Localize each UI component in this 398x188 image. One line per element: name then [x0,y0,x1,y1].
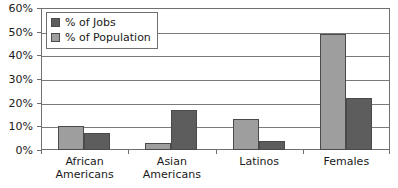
legend-swatch-icon [51,18,60,27]
bar-group-females [303,8,390,150]
x-label-line: Americans [128,168,215,181]
bar-jobs [346,98,372,150]
x-label-line: Females [303,155,390,168]
x-tick-mark [216,150,217,154]
x-tick-mark [128,150,129,154]
y-tick-label: 30% [9,73,33,86]
y-tick-label: 10% [9,120,33,133]
y-tick-label: 0% [16,144,33,157]
legend-label: % of Jobs [65,16,116,29]
bar-chart: 60% 50% 40% 30% 20% 10% 0% [0,0,398,188]
legend-swatch-icon [51,33,60,42]
bar-jobs [84,133,110,150]
y-tick-label: 50% [9,25,33,38]
x-tick-mark [41,150,42,154]
x-axis: African Americans Asian Americans Latino… [41,155,390,188]
x-label-line: Asian [128,155,215,168]
x-label-line: Latinos [216,155,303,168]
legend: % of Jobs % of Population [46,12,158,49]
bar-population [233,119,259,150]
y-tick-label: 40% [9,49,33,62]
bar-group-latinos [216,8,303,150]
bar-population [320,34,346,150]
bar-population [58,126,84,150]
bar-jobs [171,110,197,150]
legend-label: % of Population [65,31,151,44]
legend-item-population: % of Population [51,30,151,45]
x-label-latinos: Latinos [216,155,303,168]
bar-population [145,143,171,150]
x-label-line: African [41,155,128,168]
bar-jobs [259,141,285,150]
y-tick-label: 20% [9,96,33,109]
y-tick-label: 60% [9,2,33,15]
x-tick-mark [303,150,304,154]
x-label-line: Americans [41,168,128,181]
x-label-african-americans: African Americans [41,155,128,181]
legend-item-jobs: % of Jobs [51,15,151,30]
y-axis: 60% 50% 40% 30% 20% 10% 0% [0,0,38,188]
x-label-females: Females [303,155,390,168]
x-label-asian-americans: Asian Americans [128,155,215,181]
x-tick-mark [389,150,390,154]
